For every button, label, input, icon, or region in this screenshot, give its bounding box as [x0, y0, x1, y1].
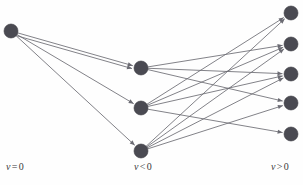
graph-node [4, 24, 18, 38]
graph-node [134, 101, 148, 115]
graph-edge-arrowhead [277, 98, 282, 102]
graph-edge-arrowhead [277, 71, 282, 75]
edge-layer [16, 18, 285, 149]
column-label-middle-op: < [139, 161, 147, 172]
column-label-left: v=0 [6, 161, 24, 172]
graph-edge-arrowhead [277, 130, 282, 134]
column-label-right-value: 0 [284, 161, 289, 172]
column-label-middle-value: 0 [147, 161, 152, 172]
graph-node [134, 144, 148, 158]
column-label-right: v>0 [271, 161, 289, 172]
column-label-left-op: = [11, 161, 19, 172]
graph-node [284, 67, 298, 81]
graph-canvas [0, 0, 303, 185]
column-label-left-value: 0 [19, 161, 24, 172]
column-label-right-op: > [276, 161, 284, 172]
graph-edge [147, 106, 283, 149]
graph-node [284, 37, 298, 51]
graph-edge [147, 68, 282, 73]
graph-figure: v=0 v<0 v>0 [0, 0, 303, 185]
graph-edge [17, 34, 134, 103]
column-label-middle: v<0 [134, 161, 152, 172]
graph-node [134, 61, 148, 75]
graph-edge [17, 33, 133, 66]
graph-edge-arrowhead [128, 99, 133, 103]
graph-edge [16, 35, 135, 145]
graph-node [284, 6, 298, 20]
graph-node [284, 127, 298, 141]
graph-node [284, 96, 298, 110]
graph-edge-arrowhead [278, 105, 283, 109]
